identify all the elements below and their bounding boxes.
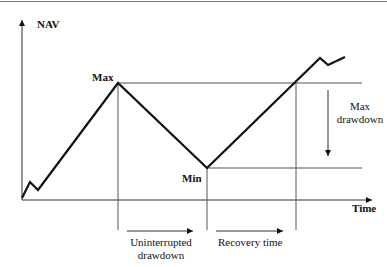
max-drawdown-label: Max drawdown <box>333 100 387 126</box>
max-label: Max <box>92 71 113 84</box>
uninterrupted-drawdown-label: Uninterrupted drawdown <box>122 236 200 262</box>
x-axis-label: Time <box>352 202 376 215</box>
recovery-time-label: Recovery time <box>218 236 282 249</box>
y-axis-label: NAV <box>37 18 59 31</box>
min-label: Min <box>182 172 202 185</box>
drawdown-diagram <box>0 0 387 267</box>
